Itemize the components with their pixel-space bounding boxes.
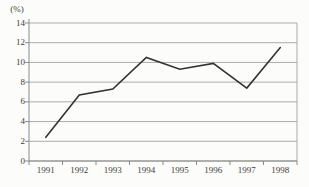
x-axis-tick-label-1996: 1996 (196, 165, 230, 176)
x-axis-tick-label-1991: 1991 (29, 165, 63, 176)
y-axis-tick-label-8: 8 (0, 77, 25, 88)
y-axis-tick-label-12: 12 (0, 37, 25, 48)
chart-canvas (0, 0, 309, 187)
data-series-line-0 (46, 48, 280, 138)
x-axis-tick-label-1993: 1993 (96, 165, 130, 176)
x-axis-tick-label-1994: 1994 (129, 165, 163, 176)
line-chart-figure: (%) 02468101214 199119921993199419951996… (0, 0, 309, 187)
x-axis-tick-label-1995: 1995 (163, 165, 197, 176)
y-axis-tick-label-10: 10 (0, 57, 25, 68)
y-axis-tick-label-6: 6 (0, 96, 25, 107)
y-axis-tick-label-2: 2 (0, 136, 25, 147)
y-axis-tick-label-14: 14 (0, 18, 25, 29)
x-axis-tick-label-1992: 1992 (62, 165, 96, 176)
y-axis-tick-label-0: 0 (0, 156, 25, 167)
y-axis-tick-label-4: 4 (0, 116, 25, 127)
x-axis-tick-label-1998: 1998 (263, 165, 297, 176)
x-axis-tick-label-1997: 1997 (230, 165, 264, 176)
